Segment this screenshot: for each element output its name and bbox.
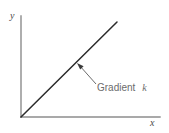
gradient-annotation-label: Gradient k <box>97 82 147 93</box>
gradient-annotation-symbol: k <box>142 82 147 93</box>
x-axis-label: x <box>149 117 155 128</box>
y-axis-label: y <box>9 10 15 21</box>
gradient-line <box>21 22 117 117</box>
gradient-annotation-prefix: Gradient <box>97 82 136 93</box>
annotation-leader-line <box>80 66 97 85</box>
figure-canvas: y x Gradient k <box>0 0 169 133</box>
gradient-line-figure: y x Gradient k <box>0 0 169 133</box>
